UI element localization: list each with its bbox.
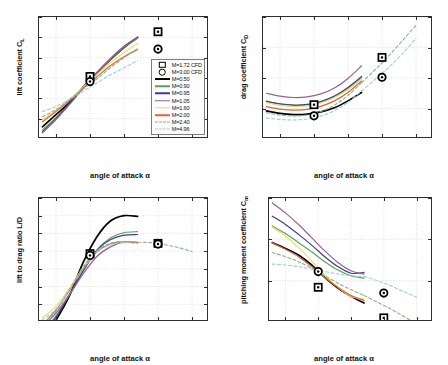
legend-item-label: M=1.72 CFD [171,62,202,68]
y-tick-mark [204,37,207,38]
y-tick-mark [39,251,42,252]
line-swatch-icon [155,100,170,102]
y-tick-mark [39,78,42,79]
x-tick-mark [416,17,417,20]
axis-label-x-cm: angle of attack α [264,354,424,363]
axis-label-y-lift: lift coefficient CL [15,0,29,142]
y-tick-mark [39,304,42,305]
x-tick-mark [348,17,349,20]
legend-item[interactable]: M=1.05 [154,97,202,104]
x-tick-mark [417,198,418,201]
x-tick-mark [382,17,383,20]
legend-item[interactable]: M=1.72 CFD [154,61,202,68]
x-tick-mark [124,317,125,320]
x-tick-mark [314,17,315,20]
legend-item-label: M=2.00 [171,112,190,118]
y-tick-mark [263,109,266,110]
figure-multi-panel-aero-coefficients: lift coefficient CL -0.4-0.200.20.40.60.… [0,0,448,365]
x-tick-mark [158,17,159,20]
x-tick-mark [348,134,349,137]
plot-area-lift-to-drag: -1-0.500.511.522.5010203040 [38,197,208,321]
legend-line-swatch [154,97,171,104]
x-tick-mark [124,17,125,20]
y-tick-mark [428,17,431,18]
legend-line-swatch [154,112,171,119]
x-tick-mark [90,317,91,320]
line-swatch-icon [155,122,170,123]
axis-label-y-cm: pitching moment coefficient Cm [239,175,253,325]
legend-item-label: M=4.96 [171,126,190,132]
legend-line-swatch [154,76,171,83]
legend-item[interactable]: M=0.90 [154,83,202,90]
line-swatch-icon [155,86,170,88]
axis-label-x-ld: angle of attack α [40,354,200,363]
panel-drag-coefficient: drag coefficient CD 00.20.40.60.80102030… [224,0,448,182]
x-tick-mark [90,198,91,201]
legend-square-marker-icon [154,61,171,68]
x-tick-mark [351,198,352,201]
legend-item[interactable]: M=4.96 [154,126,202,133]
panel-pitching-moment: pitching moment coefficient Cm -0.0500.0… [224,183,448,365]
x-tick-mark [90,17,91,20]
x-tick-mark [192,17,193,20]
x-tick-mark [382,134,383,137]
y-tick-mark [204,216,207,217]
y-tick-mark [428,281,431,282]
line-swatch-icon [155,78,170,80]
plot-area-drag: 00.20.40.60.8010203040 [262,16,432,138]
x-tick-mark [285,198,286,201]
y-tick-mark [39,198,42,199]
y-tick-mark [263,48,266,49]
legend-item[interactable]: M=3.00 CFD [154,68,202,75]
legend-item-label: M=0.95 [171,90,190,96]
x-tick-mark [417,317,418,320]
legend-item-label: M=1.60 [171,105,190,111]
legend-item-label: M=1.05 [171,98,190,104]
y-tick-mark [39,216,42,217]
x-tick-mark [314,134,315,137]
legend-item-label: M=0.90 [171,83,190,89]
legend-line-swatch [154,119,171,126]
legend-item[interactable]: M=2.00 [154,111,202,118]
x-tick-mark [124,134,125,137]
panel-lift-to-drag-ratio: lift to drag ratio L/D -1-0.500.511.522.… [0,183,224,365]
y-tick-mark [39,233,42,234]
x-tick-mark [158,317,159,320]
x-tick-mark [384,198,385,201]
y-tick-mark [204,233,207,234]
y-tick-mark [263,78,266,79]
axis-label-y-drag: drag coefficient CD [239,0,253,142]
y-tick-mark [204,251,207,252]
y-tick-mark [39,58,42,59]
plot-area-pitching-moment: -0.0500.050.1010203040 [268,197,432,321]
y-tick-mark [269,198,272,199]
x-tick-mark [124,198,125,201]
legend-item[interactable]: M=2.40 [154,119,202,126]
x-tick-mark [56,17,57,20]
legend-item[interactable]: M=0.95 [154,90,202,97]
x-tick-mark [90,134,91,137]
x-tick-mark [56,134,57,137]
y-tick-mark [269,239,272,240]
legend-item[interactable]: M=0.50 [154,76,202,83]
y-tick-mark [204,304,207,305]
legend-item[interactable]: M=1.60 [154,104,202,111]
x-tick-mark [384,317,385,320]
y-tick-mark [428,239,431,240]
legend-line-swatch [154,126,171,133]
y-tick-mark [428,198,431,199]
x-tick-mark [192,317,193,320]
axis-label-x-lift: angle of attack α [40,171,200,180]
legend-item-label: M=0.50 [171,76,190,82]
line-swatch-icon [155,93,170,95]
x-tick-mark [285,317,286,320]
y-tick-mark [39,119,42,120]
line-swatch-icon [155,107,170,109]
line-swatch-icon [155,129,170,130]
y-tick-mark [39,17,42,18]
y-tick-mark [204,17,207,18]
y-tick-mark [39,287,42,288]
line-swatch-icon [155,114,170,116]
y-tick-mark [263,17,266,18]
y-tick-mark [39,37,42,38]
